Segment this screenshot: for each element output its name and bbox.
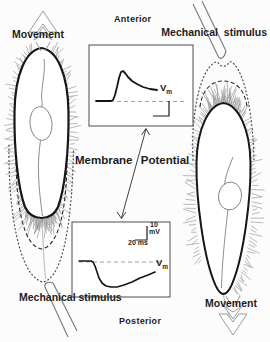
figure-canvas: Anterior Movement Mechanical stimulus Me… — [0, 0, 270, 342]
scale-amplitude-value: 10 — [150, 221, 158, 228]
left-stimulus-label: Mechanical stimulus — [19, 291, 122, 303]
scale-amplitude-unit: mV — [149, 228, 160, 235]
left-movement-label: Movement — [12, 28, 64, 40]
right-movement-label: Movement — [205, 297, 257, 309]
membrane-potential-title: Membrane Potential — [75, 154, 189, 166]
anterior-label: Anterior — [114, 14, 151, 24]
bottom-vm-label: Vm — [156, 257, 168, 270]
top-vm-label: Vm — [160, 82, 172, 95]
posterior-label: Posterior — [119, 316, 161, 326]
scale-time-label: 20 ms — [128, 239, 148, 246]
membrane-potential-connector-arrow-icon — [117, 129, 150, 219]
right-stimulus-label: Mechanical stimulus — [161, 26, 267, 38]
